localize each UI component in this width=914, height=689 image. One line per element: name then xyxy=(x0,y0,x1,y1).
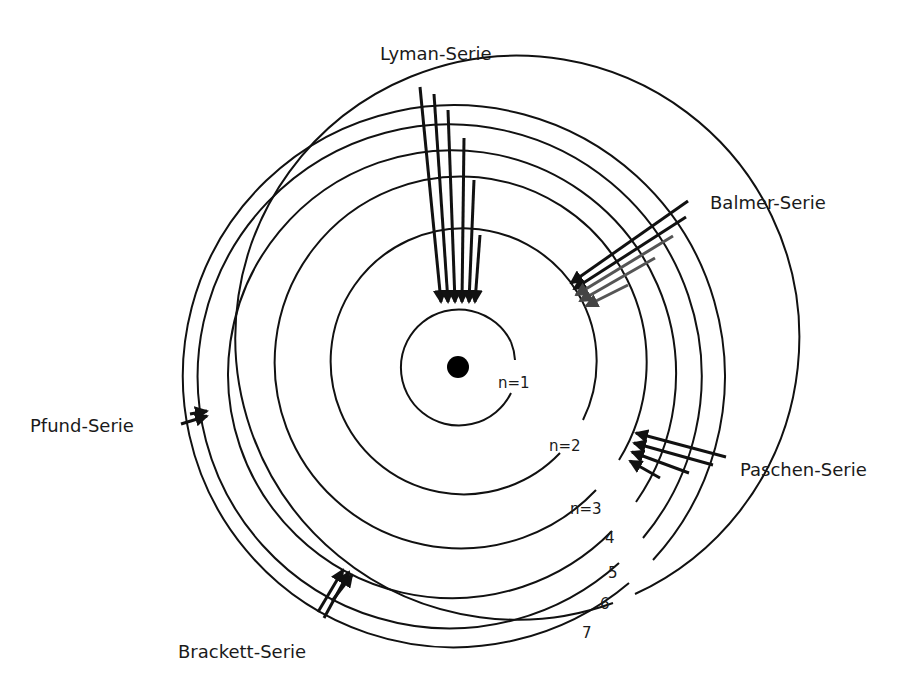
label-lyman: Lyman-Serie xyxy=(380,43,491,64)
label-brackett: Brackett-Serie xyxy=(178,641,306,662)
orbits xyxy=(183,56,799,647)
orbit-n5 xyxy=(198,124,702,628)
label-balmer: Balmer-Serie xyxy=(710,192,826,213)
paschen-transitions xyxy=(630,433,726,478)
nucleus xyxy=(447,356,469,378)
label-n1: n=1 xyxy=(498,374,530,392)
label-n4: 4 xyxy=(605,529,615,547)
bohr-model-diagram: n=1 n=2 n=3 4 5 6 7 Lyman-Serie Balmer-S… xyxy=(0,0,914,689)
orbit-n1-tail xyxy=(511,342,515,360)
lyman-transitions xyxy=(420,87,480,302)
label-n6: 6 xyxy=(600,595,610,613)
label-pfund: Pfund-Serie xyxy=(30,415,134,436)
label-n5: 5 xyxy=(608,564,618,582)
orbit-labels: n=1 n=2 n=3 4 5 6 7 xyxy=(498,374,618,642)
label-n3: n=3 xyxy=(570,500,602,518)
label-n7: 7 xyxy=(582,624,592,642)
label-n2: n=2 xyxy=(549,437,581,455)
label-paschen: Paschen-Serie xyxy=(740,459,867,480)
